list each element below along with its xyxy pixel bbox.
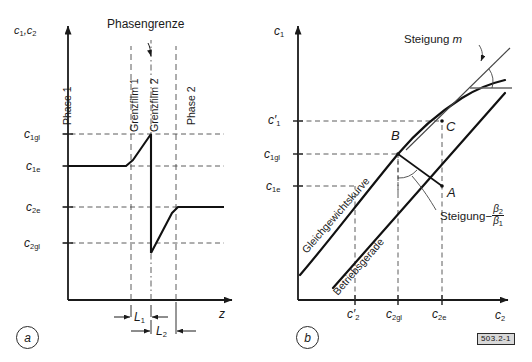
point-label-C: C: [446, 120, 455, 133]
zone-label-grenzfilm-2: Grenzfilm 2: [149, 78, 160, 132]
point-C: [440, 119, 444, 123]
panel-b-ytick-c1gl: c1gl: [264, 148, 280, 161]
zone-label-phase-1: Phase 1: [62, 86, 73, 125]
dimension-label-L1: L1: [134, 311, 145, 324]
zone-label-phase-2: Phase 2: [186, 86, 197, 125]
figure-reference-stamp: 503.2-1: [477, 333, 515, 345]
phasengrenze-label: Phasengrenze: [107, 18, 184, 30]
panel-a-ytick-c2e: c2e: [26, 201, 40, 214]
annotation-steigung-beta: Steigung−β2β1: [440, 204, 504, 227]
panel-b-x-axis-label: c2: [495, 309, 505, 322]
panel-b-xtick-c2e: c2e: [432, 308, 446, 321]
panel-a-ytick-c1e: c1e: [26, 160, 40, 173]
panel-b-xtick-c2gl: c2gl: [386, 308, 402, 321]
panel-b-guides: [298, 121, 442, 300]
annotation-steigung-m: Steigung m: [404, 34, 462, 46]
line-B-A: [398, 154, 442, 186]
angle-arc-beta: [398, 170, 417, 178]
panel-tag-a: a: [16, 326, 39, 349]
curve-c2: [151, 207, 224, 253]
zone-label-grenzfilm-1: Grenzfilm 1: [129, 78, 140, 132]
panel-a-x-axis-label: z: [219, 308, 225, 320]
panel-b-axes: [298, 26, 508, 300]
panel-tag-b: b: [296, 326, 319, 349]
point-label-A: A: [447, 186, 456, 199]
panel-b-ytick-c1e: c1e: [266, 180, 280, 193]
panel-a-ytick-c1gl: c1gl: [24, 128, 40, 141]
point-A: [440, 184, 444, 188]
panel-b-xtick-c2-prime: c′2: [347, 308, 359, 321]
point-B: [396, 152, 400, 156]
phasengrenze-leader: [148, 43, 151, 56]
curve-c1: [68, 134, 151, 166]
panel-a-y-axis-label: c1,c2: [14, 25, 36, 37]
panel-b-y-axis-label: c1: [274, 25, 284, 38]
panel-a-level-lines: [62, 134, 224, 243]
dimension-label-L2: L2: [156, 325, 167, 338]
steigung-m-leader: [479, 45, 482, 61]
panel-a-ytick-c2gl: c2gl: [24, 237, 40, 250]
panel-b-ytick-c1-prime: c′1: [268, 114, 280, 127]
figure-container: c1,c2 z Phasengrenze Phase 1 Grenzfilm 1…: [0, 0, 532, 362]
point-label-B: B: [391, 129, 400, 142]
line-tangent-m: [406, 48, 510, 150]
